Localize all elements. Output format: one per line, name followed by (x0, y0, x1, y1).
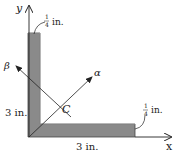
svg-text:4: 4 (45, 21, 49, 28)
vertical-leg-length-label: 3 in. (5, 107, 27, 118)
alpha-axis-label: α (94, 67, 101, 78)
svg-text:1: 1 (45, 13, 49, 20)
svg-text:in.: in. (52, 17, 64, 27)
y-axis-label: y (15, 2, 23, 15)
svg-text:1: 1 (144, 102, 148, 109)
centroid-label: C (62, 103, 71, 116)
svg-text:in.: in. (151, 105, 163, 115)
angle-section-diagram: y x α β C 3 in. 3 in. 1 4 in. 1 4 in. (0, 0, 185, 153)
horizontal-leg-thickness-label: 1 4 in. (135, 102, 163, 129)
vertical-leg-thickness-label: 1 4 in. (34, 13, 64, 34)
horizontal-leg-length-label: 3 in. (76, 141, 98, 152)
beta-axis-label: β (3, 60, 10, 71)
angle-section (28, 33, 135, 137)
svg-text:4: 4 (144, 110, 148, 117)
x-axis-label: x (166, 140, 173, 153)
